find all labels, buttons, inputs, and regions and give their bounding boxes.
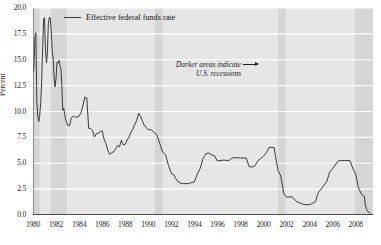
y-tick-label-15.0: 15.0 (0, 55, 26, 64)
annotation-line-2: U.S. recessions (196, 69, 241, 78)
y-tick-label-12.5: 12.5 (0, 81, 26, 90)
y-tick-label-5.0: 5.0 (0, 158, 26, 167)
y-tick-label-20.0: 20.0 (0, 3, 26, 12)
recession-annotation: Darker areas indicate U.S. recessions (176, 60, 261, 79)
annotation-line-1: Darker areas indicate (176, 60, 241, 69)
y-tick-label-2.5: 2.5 (0, 184, 26, 193)
chart-svg (33, 8, 373, 215)
y-tick-label-10.0: 10.0 (0, 107, 26, 116)
chart-figure: Percent 0.02.55.07.510.012.515.017.520.0… (0, 0, 381, 245)
plot-area (33, 8, 373, 215)
y-tick-label-17.5: 17.5 (0, 29, 26, 38)
legend-label-0: Effective federal funds rate (86, 13, 175, 22)
chart-legend: Effective federal funds rate (64, 13, 175, 22)
x-tick-label-2008: 2008 (341, 220, 371, 229)
legend-line-swatch (64, 17, 81, 18)
right-arrow-icon (243, 61, 261, 68)
y-tick-label-0.0: 0.0 (0, 210, 26, 219)
y-tick-label-7.5: 7.5 (0, 132, 26, 141)
